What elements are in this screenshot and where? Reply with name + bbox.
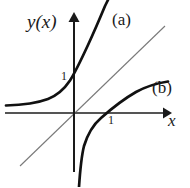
curve-b-logarithm (79, 82, 168, 188)
curve-b-label: (b) (152, 79, 172, 96)
y-axis-tick-label-one: 1 (61, 70, 67, 82)
y-axis-arrowhead (69, 12, 80, 22)
x-axis-tick-label-one: 1 (108, 114, 114, 126)
x-axis-label: x (168, 112, 176, 129)
curve-a-label: (a) (112, 11, 131, 28)
math-figure: y(x) x (a) (b) 1 1 (0, 0, 190, 187)
identity-line-y-equals-x (20, 26, 165, 166)
y-axis-label: y(x) (27, 12, 57, 31)
curve-a-exponential (6, 0, 108, 106)
